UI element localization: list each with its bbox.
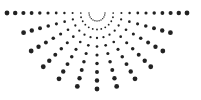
sunburst-dot	[106, 52, 109, 55]
sunburst-dot	[96, 37, 98, 39]
sunburst-dot	[41, 64, 46, 69]
sunburst-dot	[153, 45, 157, 49]
sunburst-dot	[52, 36, 56, 40]
sunburst-dot	[74, 48, 77, 51]
sunburst-dot	[120, 55, 124, 59]
sunburst-dot	[47, 59, 51, 63]
sunburst-dot	[108, 34, 110, 36]
sunburst-dot	[133, 76, 138, 81]
sunburst-dot	[103, 16, 104, 17]
sunburst-dot	[46, 11, 49, 14]
sunburst-dot	[87, 44, 90, 47]
sunburst-dot	[55, 22, 58, 25]
sunburst-dot	[13, 11, 17, 15]
sunburst-dot	[78, 30, 80, 32]
sunburst-dot	[89, 16, 90, 17]
sunburst-dot	[136, 22, 139, 25]
sunburst-dot	[96, 20, 97, 21]
sunburst-dot	[152, 11, 155, 14]
sunburst-dot	[125, 28, 128, 31]
sunburst-dot	[95, 87, 100, 92]
sunburst-dot	[89, 14, 90, 15]
sunburst-dot	[160, 49, 165, 54]
sunburst-dot	[89, 36, 91, 38]
sunburst-dot	[144, 24, 148, 28]
sunburst-dot	[85, 52, 88, 55]
dotted-sunburst-icon	[0, 0, 201, 100]
sunburst-dot	[46, 24, 50, 28]
sunburst-dot	[95, 78, 99, 82]
sunburst-dot	[80, 16, 82, 18]
sunburst-dot	[5, 11, 10, 16]
sunburst-dot	[108, 24, 110, 26]
sunburst-dot	[104, 12, 105, 13]
sunburst-dot	[95, 53, 98, 56]
sunburst-dot	[74, 24, 76, 26]
sunburst-dot	[160, 28, 164, 32]
sunburst-dot	[92, 19, 93, 20]
sunburst-dot	[146, 41, 150, 45]
sunburst-dot	[112, 12, 114, 14]
sunburst-dot	[84, 24, 86, 26]
sunburst-dot	[116, 48, 119, 51]
sunburst-dot	[119, 35, 122, 38]
sunburst-dot	[112, 16, 114, 18]
sunburst-dot	[137, 53, 141, 57]
sunburst-dot	[82, 20, 84, 22]
sunburst-dot	[60, 47, 64, 51]
sunburst-dot	[112, 76, 116, 80]
sunburst-dot	[30, 11, 34, 15]
sunburst-dot	[95, 62, 99, 66]
sunburst-dot	[177, 11, 181, 15]
sunburst-dot	[128, 20, 131, 23]
sunburst-dot	[53, 53, 57, 57]
sunburst-dot	[185, 11, 190, 16]
sunburst-dot	[96, 29, 98, 31]
sunburst-graphic	[0, 0, 201, 100]
sunburst-dot	[144, 11, 147, 14]
sunburst-dot	[161, 11, 165, 15]
sunburst-dot	[63, 12, 65, 14]
sunburst-dot	[57, 76, 62, 81]
sunburst-dot	[114, 30, 116, 32]
sunburst-dot	[21, 30, 26, 35]
sunburst-dot	[125, 41, 128, 44]
sunburst-dot	[125, 62, 129, 66]
sunburst-dot	[108, 60, 112, 64]
sunburst-dot	[129, 69, 133, 73]
sunburst-dot	[104, 14, 105, 15]
sunburst-dot	[67, 28, 70, 31]
sunburst-dot	[61, 69, 65, 73]
sunburst-dot	[83, 34, 85, 36]
sunburst-dot	[143, 59, 147, 63]
sunburst-dot	[95, 70, 99, 74]
sunburst-dot	[29, 49, 34, 54]
sunburst-dot	[44, 41, 48, 45]
sunburst-dot	[118, 24, 120, 26]
sunburst-dot	[72, 35, 75, 38]
sunburst-dot	[36, 45, 40, 49]
sunburst-dot	[66, 41, 69, 44]
sunburst-dot	[131, 47, 135, 51]
sunburst-dot	[110, 68, 114, 72]
sunburst-dot	[55, 12, 58, 15]
sunburst-dot	[104, 44, 107, 47]
sunburst-dot	[72, 12, 74, 14]
sunburst-dot	[70, 55, 74, 59]
sunburst-dot	[92, 28, 94, 30]
sunburst-dot	[139, 36, 143, 40]
sunburst-dot	[148, 64, 153, 69]
sunburst-dot	[30, 28, 34, 32]
sunburst-dot	[77, 76, 81, 80]
sunburst-dot	[72, 18, 74, 20]
sunburst-dot	[63, 20, 66, 23]
sunburst-dot	[100, 19, 101, 20]
sunburst-dot	[168, 30, 173, 35]
sunburst-dot	[80, 68, 84, 72]
sunburst-dot	[102, 18, 103, 19]
sunburst-dot	[21, 11, 25, 15]
sunburst-dot	[114, 84, 119, 89]
sunburst-dot	[38, 11, 41, 14]
sunburst-dot	[88, 26, 90, 28]
sunburst-dot	[96, 45, 99, 48]
